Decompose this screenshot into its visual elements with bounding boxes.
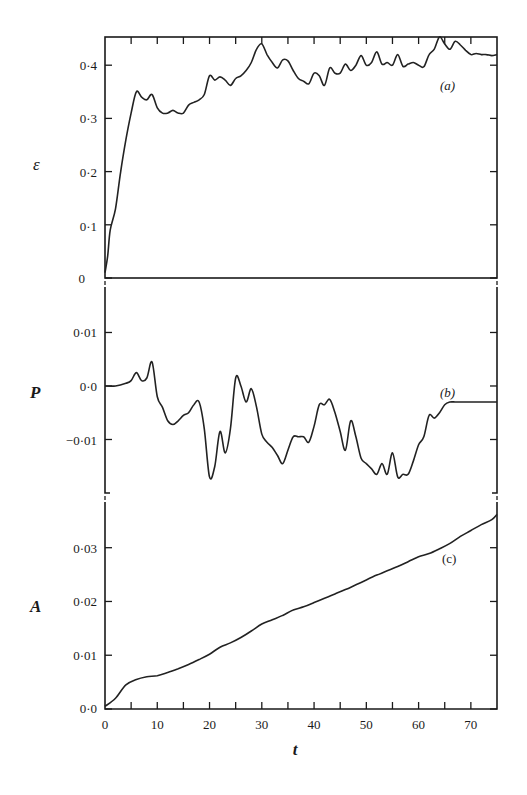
ytick-b-001: 0·01 — [73, 325, 97, 340]
panel-a-tag: (a) — [440, 78, 455, 93]
ylabel-epsilon: ε — [33, 155, 40, 174]
xlabel-t: t — [293, 740, 299, 759]
x-tick-label: 60 — [412, 717, 425, 732]
ytick-b-00: 0·0 — [80, 379, 97, 394]
x-tick-label: 10 — [151, 717, 164, 732]
x-tick-label: 20 — [203, 717, 216, 732]
panel-c-ticks — [105, 548, 497, 709]
panel-b: 0·01 0·0 −0·01 P (b) — [29, 287, 497, 493]
ytick-b-m001: −0·01 — [66, 433, 97, 448]
ylabel-a: A — [29, 597, 41, 616]
ytick-a-02: 0·2 — [80, 165, 97, 180]
ytick-a-01: 0·1 — [80, 219, 97, 234]
panel-a-frame — [105, 37, 497, 278]
ytick-c-001: 0·01 — [73, 648, 97, 663]
x-tick-label: 50 — [360, 717, 373, 732]
ytick-a-0: 0 — [79, 271, 86, 286]
ylabel-p: P — [29, 383, 41, 402]
panel-a: 0·4 0·3 0·2 0·1 0 ε (a) — [33, 37, 497, 500]
panel-b-frame — [105, 287, 497, 493]
x-tick-label: 0 — [102, 717, 109, 732]
epsilon-curve — [105, 37, 497, 273]
ytick-c-00: 0·0 — [80, 701, 97, 716]
panel-b-tag: (b) — [440, 385, 455, 400]
ytick-a-03: 0·3 — [80, 111, 97, 126]
x-tick-label: 70 — [464, 717, 477, 732]
panel-b-ticks — [105, 332, 497, 439]
panel-c-frame — [105, 502, 497, 709]
x-tick-label: 40 — [308, 717, 321, 732]
panel-c-tag: (c) — [442, 551, 456, 566]
panel-a-ticks — [105, 37, 497, 500]
figure: 0·4 0·3 0·2 0·1 0 ε (a) 0·01 0·0 −0·01 P… — [0, 0, 527, 795]
ytick-c-003: 0·03 — [73, 541, 97, 556]
x-tick-labels: 010203040506070 — [102, 717, 478, 732]
x-tick-label: 30 — [255, 717, 268, 732]
ytick-c-002: 0·02 — [73, 594, 97, 609]
ytick-a-04: 0·4 — [80, 58, 98, 73]
p-curve — [105, 362, 497, 479]
panel-c: 0·03 0·02 0·01 0·0 A (c) 010203040506070… — [29, 502, 497, 759]
a-curve — [105, 514, 497, 706]
